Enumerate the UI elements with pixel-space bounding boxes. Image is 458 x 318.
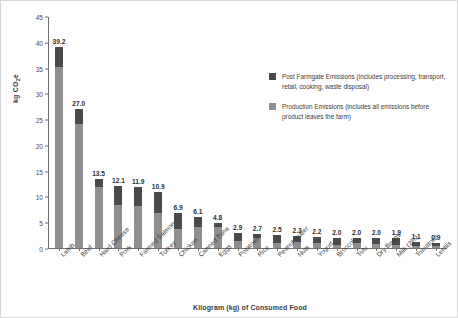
bar-column[interactable]: 13.5: [89, 17, 109, 248]
bar-segment-production[interactable]: [75, 124, 83, 248]
legend-label: Post Farmgate Emissions (includes proces…: [282, 72, 449, 91]
y-tick-mark: [45, 171, 48, 172]
x-tick-column: Tomatoes: [405, 253, 425, 303]
x-tick-column: Canned Tuna: [187, 253, 207, 303]
bar-column[interactable]: 27.0: [69, 17, 89, 248]
bar-column[interactable]: 12.1: [109, 17, 129, 248]
bar-column[interactable]: 6.1: [188, 17, 208, 248]
x-tick-column: Milk (2%): [385, 253, 405, 303]
chart-figure: kg CO2e 051015202530354045 39.227.013.51…: [0, 0, 458, 318]
bar-column[interactable]: 2.5: [267, 17, 287, 248]
bar-segment-post-farmgate[interactable]: [313, 237, 321, 244]
bar-value-label: 39.2: [53, 38, 66, 45]
bar-stack[interactable]: 27.0: [75, 109, 83, 248]
x-tick-column: Broccoli: [326, 253, 346, 303]
bar-value-label: 2.0: [372, 229, 381, 236]
bar-value-label: 2.5: [273, 226, 282, 233]
bar-segment-post-farmgate[interactable]: [273, 235, 281, 243]
bar-column[interactable]: 1.1: [406, 17, 426, 248]
x-axis-tick-labels: LambBeefHard CheesePorkFarmed SalmonTurk…: [49, 253, 444, 303]
bar-stack[interactable]: 2.0: [333, 238, 341, 248]
bar-segment-production[interactable]: [134, 206, 142, 248]
bar-segment-production[interactable]: [234, 241, 242, 248]
chart-legend: Post Farmgate Emissions (includes proces…: [269, 72, 449, 132]
x-tick-column: Pork: [108, 253, 128, 303]
bar-stack[interactable]: 11.9: [134, 187, 142, 248]
x-tick-column: Turkey: [148, 253, 168, 303]
x-tick-column: Potatoes: [227, 253, 247, 303]
bar-segment-post-farmgate[interactable]: [372, 238, 380, 245]
bar-segment-post-farmgate[interactable]: [154, 192, 162, 213]
x-tick-column: Yogurt: [306, 253, 326, 303]
y-axis-title: kg CO2e: [12, 49, 19, 129]
bar-value-label: 6.1: [193, 208, 202, 215]
bar-value-label: 2.0: [332, 229, 341, 236]
bar-segment-post-farmgate[interactable]: [234, 233, 242, 241]
bar-column[interactable]: 39.2: [49, 17, 69, 248]
bar-value-label: 2.9: [233, 224, 242, 231]
bar-segment-post-farmgate[interactable]: [174, 213, 182, 229]
bar-value-label: 2.7: [253, 225, 262, 232]
bar-segment-post-farmgate[interactable]: [55, 47, 63, 67]
y-tick-mark: [45, 17, 48, 18]
bar-column[interactable]: 0.9: [426, 17, 446, 248]
bar-column[interactable]: 1.9: [386, 17, 406, 248]
x-tick-column: Eggs: [207, 253, 227, 303]
y-tick-mark: [45, 42, 48, 43]
x-tick-column: Chicken: [168, 253, 188, 303]
x-tick-column: Lamb: [49, 253, 69, 303]
bar-column[interactable]: 2.3: [287, 17, 307, 248]
bar-segment-post-farmgate[interactable]: [194, 217, 202, 227]
bar-column[interactable]: 10.9: [148, 17, 168, 248]
bar-segment-post-farmgate[interactable]: [134, 187, 142, 207]
bar-stack[interactable]: 2.5: [273, 235, 281, 248]
y-tick-mark: [45, 249, 48, 250]
bar-value-label: 2.0: [352, 229, 361, 236]
legend-item[interactable]: Production Emissions (includes all emiss…: [269, 102, 449, 121]
bar-value-label: 27.0: [72, 100, 85, 107]
y-tick-mark: [45, 94, 48, 95]
bar-segment-production[interactable]: [95, 187, 103, 248]
bar-stack[interactable]: 39.2: [55, 47, 63, 248]
bar-value-label: 6.9: [173, 204, 182, 211]
bar-value-label: 11.9: [132, 178, 144, 185]
y-tick-mark: [45, 120, 48, 121]
bar-segment-post-farmgate[interactable]: [75, 109, 83, 123]
bar-column[interactable]: 11.9: [128, 17, 148, 248]
x-tick-column: Nuts: [286, 253, 306, 303]
x-tick-column: Farmed Salmon: [128, 253, 148, 303]
bar-column[interactable]: 2.9: [228, 17, 248, 248]
legend-swatch: [269, 103, 276, 110]
legend-label: Production Emissions (includes all emiss…: [282, 102, 449, 121]
bar-stack[interactable]: 2.2: [313, 237, 321, 248]
bar-stack[interactable]: 13.5: [95, 179, 103, 248]
x-tick-column: Dry Beans: [365, 253, 385, 303]
bar-value-label: 10.9: [152, 183, 165, 190]
x-tick-column: Beef: [69, 253, 89, 303]
legend-swatch: [269, 73, 276, 80]
bar-column[interactable]: 2.0: [327, 17, 347, 248]
y-tick-mark: [45, 68, 48, 69]
x-tick-column: Hard Cheese: [89, 253, 109, 303]
x-tick-column: Rice: [247, 253, 267, 303]
bar-segment-post-farmgate[interactable]: [95, 179, 103, 187]
x-tick-column: Lentils: [424, 253, 444, 303]
legend-item[interactable]: Post Farmgate Emissions (includes proces…: [269, 72, 449, 91]
bar-column[interactable]: 2.2: [307, 17, 327, 248]
y-tick-mark: [45, 145, 48, 146]
x-tick-column: Tofu: [345, 253, 365, 303]
bar-column[interactable]: 2.7: [247, 17, 267, 248]
bar-stack[interactable]: 2.9: [234, 233, 242, 248]
bar-column[interactable]: 2.0: [347, 17, 367, 248]
bar-value-label: 2.2: [312, 228, 321, 235]
x-axis-title: Kilogram (kg) of Consumed Food: [1, 304, 457, 311]
y-tick-mark: [45, 223, 48, 224]
bar-value-label: 4.8: [213, 214, 222, 221]
bar-segment-post-farmgate[interactable]: [114, 186, 122, 206]
bar-column[interactable]: 6.9: [168, 17, 188, 248]
bar-column[interactable]: 4.8: [208, 17, 228, 248]
bar-stack[interactable]: 2.0: [372, 238, 380, 248]
plot-area: 051015202530354045 39.227.013.512.111.91…: [48, 17, 446, 249]
bar-column[interactable]: 2.0: [367, 17, 387, 248]
bar-segment-production[interactable]: [55, 67, 63, 248]
